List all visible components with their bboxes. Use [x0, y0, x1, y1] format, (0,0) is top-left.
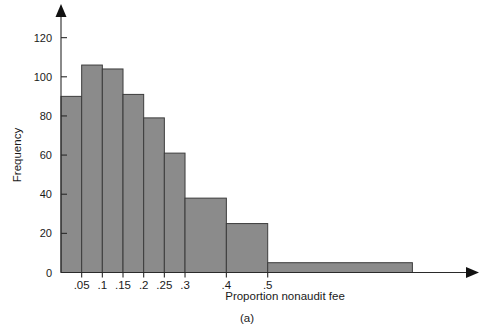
y-axis-title: Frequency	[11, 128, 23, 183]
histogram-bar	[185, 198, 226, 272]
x-tick-label: .05	[74, 279, 90, 291]
histogram-bar	[144, 118, 165, 273]
x-tick-label: .3	[180, 279, 190, 291]
histogram-bar	[123, 94, 144, 272]
y-tick-label: 100	[34, 71, 52, 83]
x-axis-arrow-icon	[466, 267, 479, 278]
y-tick-label: 0	[46, 267, 52, 279]
x-axis-title: Proportion nonaudit fee	[225, 290, 345, 302]
x-tick-label: .4	[222, 279, 232, 291]
histogram-bar	[61, 96, 82, 272]
y-tick-label: 60	[40, 149, 52, 161]
histogram-bar	[102, 69, 123, 273]
y-tick-label: 120	[34, 32, 52, 44]
x-tick-label: .15	[115, 279, 131, 291]
histogram-bar	[268, 263, 413, 273]
x-tick-label: .25	[156, 279, 172, 291]
y-tick-label: 40	[40, 188, 52, 200]
histogram-bar	[82, 65, 103, 272]
bars-group	[61, 65, 412, 272]
figure-caption: (a)	[240, 312, 254, 324]
y-tick-label: 80	[40, 110, 52, 122]
histogram-bar	[164, 153, 185, 272]
histogram-bar	[226, 224, 267, 273]
x-tick-label: .2	[139, 279, 149, 291]
histogram-plot: 020406080100120 .05.1.15.2.25.3.4.5 Freq…	[0, 0, 495, 330]
y-tick-label: 20	[40, 227, 52, 239]
x-tick-label: .1	[98, 279, 108, 291]
histogram-figure: 020406080100120 .05.1.15.2.25.3.4.5 Freq…	[0, 0, 495, 330]
x-tick-group: .05.1.15.2.25.3.4.5	[74, 273, 273, 291]
x-tick-label: .5	[263, 279, 273, 291]
y-axis-arrow-icon	[56, 4, 67, 17]
